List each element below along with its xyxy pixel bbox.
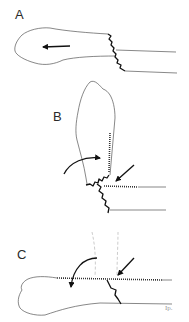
diagram-canvas [0, 0, 189, 322]
panel-a-bone [15, 28, 177, 73]
dotted-guide-horizontal [104, 186, 138, 187]
rotated-fragment-outline [76, 81, 115, 184]
curved-arrow-icon [64, 158, 100, 174]
bone-shaft-bottom [125, 71, 177, 73]
dotted-guide-vertical [109, 133, 110, 172]
panel-b-bone [64, 81, 166, 213]
arrow-diagonal-icon [116, 165, 134, 181]
fracture-diagram: A B C Ip. [0, 0, 189, 322]
fracture-line [108, 34, 125, 71]
ghost-guide-right [117, 232, 118, 276]
reduced-bone-outline [18, 277, 172, 316]
arrow-left-icon [43, 46, 70, 47]
fracture-edge-lower [97, 184, 109, 213]
fracture-line [107, 280, 121, 304]
curved-arrow-down-icon [71, 258, 97, 287]
bone-shaft-top [116, 50, 176, 52]
panel-c-bone [18, 232, 172, 315]
arrow-diagonal-icon [118, 258, 134, 275]
ghost-guide-left [92, 232, 95, 276]
